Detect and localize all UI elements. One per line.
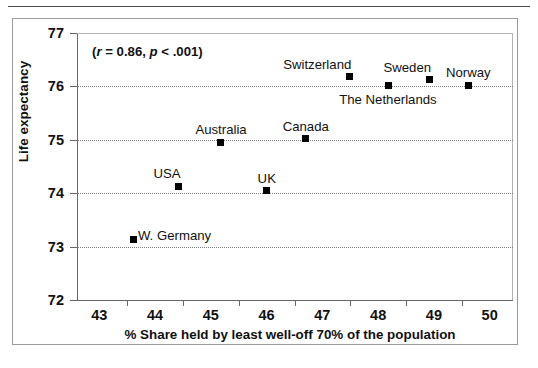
data-point-label: W. Germany [138,229,211,242]
y-tick-label-73: 73 [38,240,64,255]
x-tick-47 [295,300,296,306]
y-tick-label-76: 76 [38,79,64,94]
data-point-marker [346,73,353,80]
x-tick-44 [127,300,128,306]
data-point-marker [263,187,270,194]
x-tick-50 [462,300,463,306]
y-tick-label-72: 72 [38,293,64,308]
y-tick-73 [70,247,77,248]
data-point-marker [175,183,182,190]
data-point-marker [130,236,137,243]
y-tick-label-wrap-75: 75 [36,133,64,147]
gridline-y-74 [77,193,513,194]
data-point-label: Norway [446,66,491,79]
x-tick-label-49: 49 [414,308,454,323]
x-tick-49 [406,300,407,306]
y-tick-label-wrap-74: 74 [36,186,64,200]
gridline-y-75 [77,140,513,141]
y-axis-line [77,33,78,300]
y-tick-72 [70,300,77,301]
gridline-y-73 [77,247,513,248]
data-point-marker [465,82,472,89]
data-point-label: Sweden [383,61,431,74]
y-tick-label-74: 74 [38,186,64,201]
data-point-marker [217,139,224,146]
x-tick-label-47: 47 [302,308,342,323]
x-axis-title: % Share held by least well-off 70% of th… [60,327,520,342]
data-point-marker [302,135,309,142]
data-point-label: Australia [195,123,246,136]
y-tick-75 [70,140,77,141]
x-tick-label-50: 50 [470,308,510,323]
annotation-p-symbol: p [150,44,158,59]
y-tick-label-wrap-72: 72 [36,293,64,307]
data-point-label: Switzerland [283,58,351,71]
y-tick-label-wrap-73: 73 [36,240,64,254]
figure-root: 727374757677 4344454647484950 W. Germany… [0,0,538,368]
x-tick-label-45: 45 [191,308,231,323]
x-tick-label-48: 48 [358,308,398,323]
data-point-label: Canada [283,120,329,133]
y-tick-label-77: 77 [38,26,64,41]
annotation-r-value: = 0.86, [102,44,150,59]
gridline-y-76 [77,86,513,87]
y-tick-label-wrap-77: 77 [36,26,64,40]
y-tick-77 [70,33,77,34]
y-tick-label-75: 75 [38,133,64,148]
data-point-marker [426,76,433,83]
data-point-label: The Netherlands [339,93,437,106]
x-tick-label-44: 44 [135,308,175,323]
x-tick-label-43: 43 [79,308,119,323]
plot-top-edge [77,33,513,34]
x-tick-48 [350,300,351,306]
y-tick-76 [70,86,77,87]
y-axis-title: Life expectancy [16,32,31,192]
data-point-label: UK [258,172,276,185]
annotation-p-value: < .001) [158,44,203,59]
y-tick-label-wrap-76: 76 [36,79,64,93]
x-tick-45 [183,300,184,306]
data-point-label: USA [154,167,181,180]
x-tick-46 [239,300,240,306]
data-point-marker [385,82,392,89]
top-divider-rule [8,6,530,7]
correlation-annotation: (r = 0.86, p < .001) [92,44,203,59]
x-tick-label-46: 46 [247,308,287,323]
plot-right-edge [512,33,513,300]
y-tick-74 [70,193,77,194]
